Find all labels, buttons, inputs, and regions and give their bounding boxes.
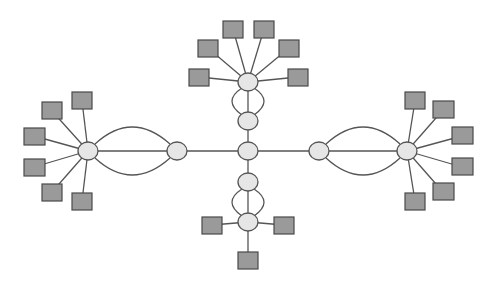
up-intermediate-node	[238, 112, 258, 130]
right-hub-node	[397, 142, 417, 160]
leaf-node	[279, 40, 299, 57]
leaf-node	[189, 69, 209, 86]
arc-right-top	[326, 127, 400, 144]
arc-left-bottom	[95, 158, 170, 175]
arc-down-left	[232, 189, 242, 216]
up-hub-node	[238, 73, 258, 91]
arc-up-left	[232, 88, 242, 115]
leaf-node	[42, 102, 62, 119]
leaf-node	[198, 40, 218, 57]
leaf-node	[42, 184, 62, 201]
arc-right-bottom	[326, 158, 400, 175]
leaf-node	[405, 193, 425, 210]
leaf-node	[223, 21, 243, 38]
left-intermediate-node	[167, 142, 187, 160]
leaf-node	[24, 159, 45, 176]
leaf-node	[288, 69, 308, 86]
left-hub-node	[78, 142, 98, 160]
leaf-node	[254, 21, 274, 38]
leaf-node	[274, 217, 294, 234]
leaf-node	[202, 217, 222, 234]
leaf-node	[72, 92, 92, 109]
right-intermediate-node	[309, 142, 329, 160]
leaf-node	[72, 193, 92, 210]
down-hub-node	[238, 213, 258, 231]
leaf-node	[24, 128, 45, 145]
network-diagram	[0, 0, 496, 289]
leaf-node	[433, 183, 454, 200]
leaf-node	[433, 101, 454, 118]
arc-down-right	[254, 189, 264, 216]
leaf-node	[405, 92, 425, 109]
arc-left-top	[95, 127, 170, 144]
leaf-node	[452, 158, 473, 175]
leaf-node	[238, 252, 258, 269]
arc-up-right	[254, 88, 264, 115]
leaf-node	[452, 127, 473, 144]
center-node	[238, 142, 258, 160]
down-intermediate-node	[238, 173, 258, 191]
